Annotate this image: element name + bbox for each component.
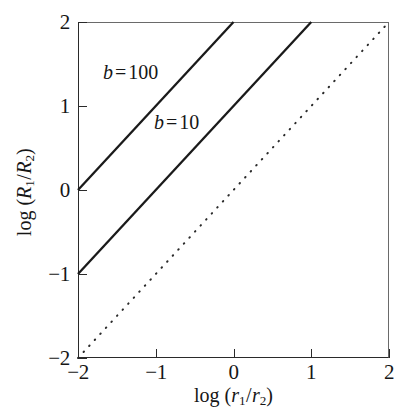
y-tick-m1	[78, 274, 87, 275]
annotation-b-10-value: 10	[179, 111, 199, 133]
x-axis-title-num-sub: 1	[239, 393, 246, 408]
x-ticklabel-m2: −2	[48, 362, 108, 383]
y-axis-title-num: R	[13, 187, 35, 199]
x-tick-1	[311, 349, 312, 358]
x-axis-title-den: r	[252, 384, 260, 406]
y-axis-title-open: (	[13, 199, 35, 206]
series-b10-line	[78, 22, 311, 274]
x-ticklabel-m1: −1	[126, 362, 186, 383]
y-axis-title: log (R1/R2)	[13, 24, 41, 360]
x-ticklabel-2: 2	[359, 362, 418, 383]
y-tick-2	[78, 22, 87, 23]
y-axis-title-den-sub: 2	[22, 155, 37, 162]
annotation-b-100-value: 100	[128, 61, 158, 83]
y-axis-title-close: )	[13, 148, 35, 155]
x-ticklabel-1: 1	[281, 362, 341, 383]
annotation-b-100-eq: =	[113, 61, 128, 83]
x-axis-title-log: log	[194, 384, 220, 406]
annotation-b-10-eq: =	[164, 111, 179, 133]
x-axis-title-num: r	[231, 384, 239, 406]
y-tick-m2	[78, 358, 87, 359]
x-tick-0	[234, 349, 235, 358]
annotation-b-10-var: b	[154, 111, 164, 133]
x-tick-m2	[78, 349, 79, 358]
y-tick-1	[78, 106, 87, 107]
annotation-b-100-var: b	[103, 61, 113, 83]
y-axis-title-den: R	[13, 162, 35, 174]
x-ticklabel-0: 0	[204, 362, 264, 383]
y-axis-title-log: log	[13, 211, 35, 237]
x-tick-2	[389, 349, 390, 358]
annotation-b-100: b=100	[103, 62, 158, 82]
y-axis-title-num-sub: 1	[22, 180, 37, 187]
x-axis-title-close: )	[266, 384, 273, 406]
figure-root: b=100 b=10 2 1 0 −1 −2 −2 −1 0 1 2 log (…	[0, 0, 418, 416]
annotation-b-10: b=10	[154, 112, 199, 132]
series-b100-line	[78, 22, 234, 190]
x-axis-title: log (r1/r2)	[78, 384, 389, 412]
y-tick-0	[78, 190, 87, 191]
y-axis-title-slash: /	[13, 174, 35, 180]
x-tick-m1	[156, 349, 157, 358]
